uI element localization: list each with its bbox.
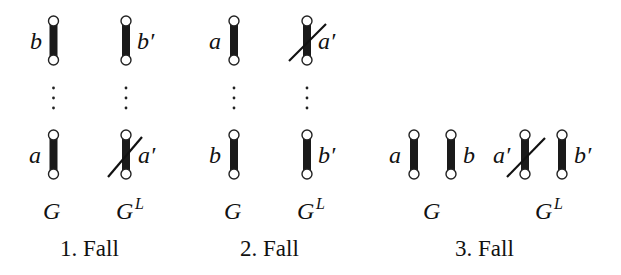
edge-b-G: b	[446, 130, 475, 179]
edge-a-G: a	[29, 130, 59, 179]
graph-label-G: G	[43, 198, 60, 224]
edge-label: a	[29, 142, 41, 168]
edge-a-prime-GL-crossed: a′	[289, 16, 336, 65]
edge-a-prime-GL-crossed: a′	[108, 130, 156, 179]
matching-diagram: b a b′	[0, 0, 621, 275]
graph-label-G: G	[423, 198, 440, 224]
ellipsis-dots	[125, 87, 128, 110]
edge-label: a′	[138, 142, 156, 168]
case-3: a b a′ b′ G G L 3. Fall	[389, 130, 592, 261]
edge-label: a	[389, 142, 401, 168]
edge-label: b	[209, 142, 221, 168]
graph-label-G: G	[224, 198, 241, 224]
ellipsis-dots	[233, 87, 236, 110]
caption-case-1: 1. Fall	[60, 236, 119, 261]
edge-a-prime-GL-crossed: a′	[493, 130, 545, 179]
case-2: a b a′ b′	[209, 16, 336, 261]
graph-label-GL-sup: L	[315, 195, 325, 212]
caption-case-2: 2. Fall	[240, 236, 299, 261]
edge-label: b′	[137, 28, 155, 54]
edge-b-prime-GL: b′	[557, 130, 592, 179]
edge-b-G: b	[30, 16, 59, 65]
edge-label: b	[30, 28, 42, 54]
graph-label-GL: G	[116, 198, 133, 224]
edge-b-prime-GL: b′	[121, 16, 155, 65]
graph-label-GL-sup: L	[553, 195, 563, 212]
edge-label: a′	[318, 28, 336, 54]
edge-a-G: a	[389, 130, 419, 179]
edge-a-G: a	[209, 16, 239, 65]
edge-label: b′	[318, 142, 336, 168]
case-1: b a b′	[29, 16, 156, 261]
graph-label-GL: G	[535, 198, 552, 224]
caption-case-3: 3. Fall	[455, 236, 514, 261]
edge-label: b	[463, 142, 475, 168]
edge-label: a	[209, 28, 221, 54]
ellipsis-dots	[52, 87, 55, 110]
edge-b-prime-GL: b′	[302, 130, 336, 179]
graph-label-GL-sup: L	[134, 195, 144, 212]
edge-label: b′	[574, 142, 592, 168]
edge-label: a′	[493, 142, 511, 168]
ellipsis-dots	[306, 87, 309, 110]
graph-label-GL: G	[297, 198, 314, 224]
edge-b-G: b	[209, 130, 239, 179]
